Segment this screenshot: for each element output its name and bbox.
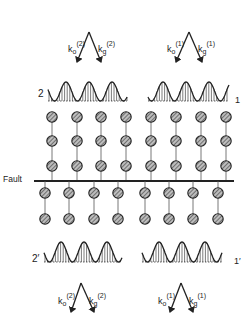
- atom: [221, 136, 231, 146]
- atom: [171, 161, 181, 171]
- atom: [171, 136, 181, 146]
- atom: [64, 188, 74, 198]
- atom: [164, 188, 174, 198]
- top-beam-pair-1: ko(1) kg(1): [167, 32, 215, 62]
- wavefield-label-2: 2: [38, 88, 44, 99]
- atom: [196, 136, 206, 146]
- atom: [221, 161, 231, 171]
- atom: [72, 112, 82, 122]
- atom: [171, 112, 181, 122]
- k0-label: ko(2): [58, 292, 75, 307]
- atom: [196, 161, 206, 171]
- wavefield-label-1: 1: [235, 95, 240, 105]
- lower-crystal: [40, 181, 223, 224]
- stacking-fault-diagram: ko(2) kg(2) ko(1) kg(1) 2 1 Fault 2′ 1′ …: [0, 0, 248, 323]
- atom: [96, 112, 106, 122]
- wavefield-2-prime: [44, 242, 122, 262]
- atom: [164, 214, 174, 224]
- wavefield-label-2-prime: 2′: [32, 253, 40, 264]
- atom: [89, 214, 99, 224]
- atom: [40, 188, 50, 198]
- wavefield-1-prime: [142, 242, 222, 262]
- wavefield-label-1-prime: 1′: [234, 256, 241, 266]
- upper-crystal: [47, 112, 231, 181]
- atom: [213, 188, 223, 198]
- atom: [40, 214, 50, 224]
- atom: [47, 112, 57, 122]
- atom: [146, 136, 156, 146]
- atom: [96, 136, 106, 146]
- atom: [188, 188, 198, 198]
- atom: [188, 214, 198, 224]
- wavefield-2: [48, 82, 127, 101]
- atom: [140, 214, 150, 224]
- atom: [221, 112, 231, 122]
- atom: [196, 112, 206, 122]
- atom: [113, 188, 123, 198]
- atom: [121, 161, 131, 171]
- atom: [64, 214, 74, 224]
- atom: [47, 161, 57, 171]
- atom: [96, 161, 106, 171]
- kg-label: kg(2): [98, 40, 115, 56]
- kg-label: kg(1): [189, 292, 206, 308]
- atom: [47, 136, 57, 146]
- k0-label: ko(1): [167, 40, 184, 55]
- atom: [146, 161, 156, 171]
- kg-label: kg(1): [198, 40, 215, 56]
- wavefield-1: [148, 82, 229, 101]
- atom: [121, 136, 131, 146]
- atom: [213, 214, 223, 224]
- atom: [146, 112, 156, 122]
- top-beam-pair-2: ko(2) kg(2): [68, 32, 115, 62]
- fault-label: Fault: [3, 174, 23, 184]
- bottom-beam-pair-2: ko(2) kg(2): [58, 283, 106, 312]
- k0-arrow: [77, 32, 89, 62]
- k0-arrow: [176, 32, 189, 62]
- atom: [113, 214, 123, 224]
- atom: [89, 188, 99, 198]
- bottom-beam-pair-1: ko(1) kg(1): [158, 283, 206, 312]
- atom: [121, 112, 131, 122]
- atom: [140, 188, 150, 198]
- atom: [72, 136, 82, 146]
- atom: [72, 161, 82, 171]
- kg-label: kg(2): [89, 292, 106, 308]
